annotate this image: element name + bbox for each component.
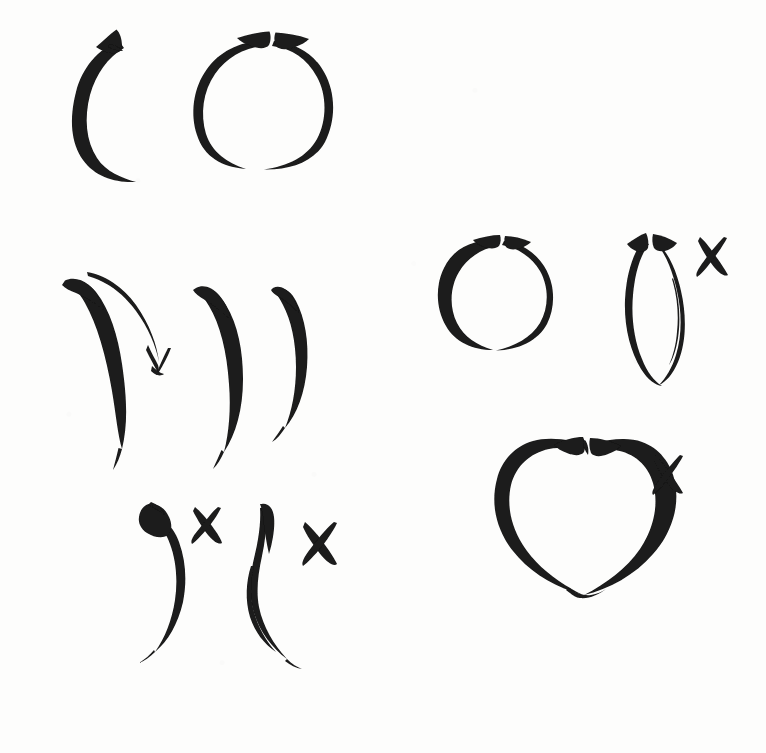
right-circle-double-arrow-stroke (438, 235, 553, 351)
s-curve-1-stroke (139, 502, 186, 663)
incorrect-mark-x-lens (696, 237, 728, 277)
practice-sheet: Brush stroke practice sheet Hand-drawn i… (0, 0, 766, 753)
open-c-arrow-stroke (72, 30, 136, 183)
ink-drawing-layer (0, 0, 766, 753)
crescent-arc-2-stroke (193, 286, 243, 469)
heart-shape-stroke (494, 437, 676, 598)
incorrect-mark-x-scurve-2 (302, 522, 337, 566)
lens-oval-stroke (625, 233, 685, 386)
s-curve-2-stroke (247, 504, 302, 669)
closed-circle-double-arrow-stroke (193, 32, 333, 170)
crescent-arc-1-stroke (62, 279, 126, 470)
crescent-arc-3-stroke (271, 287, 308, 442)
incorrect-mark-x-scurve-1 (191, 507, 222, 544)
